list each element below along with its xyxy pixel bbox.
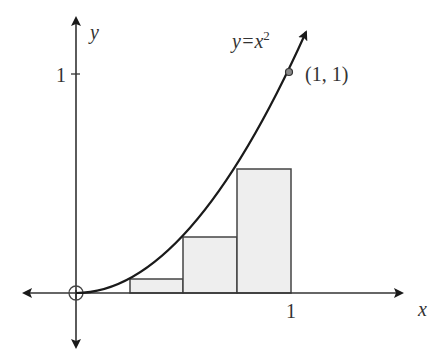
curve-label: y=x2 [232,29,270,51]
x-axis-label: x [418,299,427,319]
rectangle-4 [237,169,291,293]
riemann-rectangles [130,169,291,293]
y-tick-label-1: 1 [56,65,66,85]
y-axis-label: y [90,22,99,42]
x-tick-label-1: 1 [286,301,296,321]
point-1-1 [286,69,293,76]
rectangle-3 [183,237,237,293]
point-label: (1, 1) [305,64,348,84]
curve-label-prefix: y= [232,30,254,52]
plot-canvas [0,0,445,359]
riemann-sum-figure: y x 1 1 y=x2 (1, 1) [0,0,445,359]
curve-label-exp: 2 [263,28,270,43]
rectangle-2 [130,279,183,293]
curve-label-var: x [254,30,263,52]
